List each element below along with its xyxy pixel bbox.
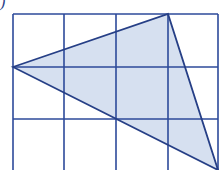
grid-triangle-diagram: [0, 0, 222, 170]
